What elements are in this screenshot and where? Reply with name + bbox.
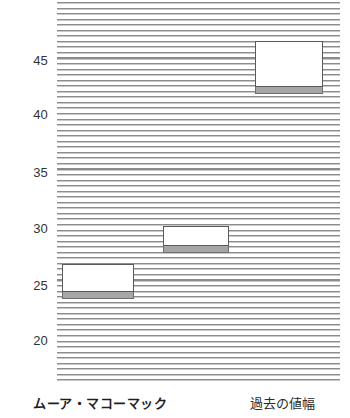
y-tick-label-20: 20 [33,334,48,347]
chart-container: 45 40 35 30 25 20 ムーア・マコーマック 過去の値幅 [0,0,350,418]
x-label-past-price-range: 過去の値幅 [250,397,315,410]
y-tick-label-25: 25 [33,279,48,292]
range-box-middle-body [163,226,229,246]
range-box-right[interactable] [255,41,323,94]
y-axis: 45 40 35 30 25 20 [0,0,57,418]
range-box-right-shadow [255,87,323,94]
range-box-left[interactable] [62,264,134,299]
range-box-middle[interactable] [163,226,229,253]
y-tick-label-40: 40 [33,108,48,121]
range-box-left-body [62,264,134,292]
range-box-middle-shadow [163,246,229,253]
y-tick-label-45: 45 [33,54,48,67]
y-tick-label-35: 35 [33,166,48,179]
y-tick-label-30: 30 [33,222,48,235]
range-box-left-shadow [62,292,134,299]
x-label-moore-mccormack: ムーア・マコーマック [33,397,167,410]
range-box-right-body [255,41,323,87]
x-axis-labels: ムーア・マコーマック 過去の値幅 [0,390,350,418]
